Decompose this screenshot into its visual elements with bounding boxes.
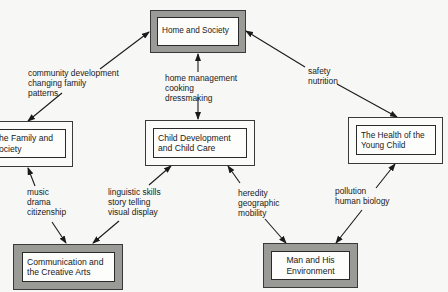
edge-family-comm-upper bbox=[28, 168, 35, 186]
node-label: Child Development and Child Care bbox=[153, 128, 247, 158]
edge-home-family-upper bbox=[100, 32, 149, 69]
node-communication-creative-arts: Communication and the Creative Arts bbox=[13, 244, 123, 290]
edge-label-child-comm: linguistic skills story telling visual d… bbox=[108, 187, 161, 218]
edge-child-comm-lower bbox=[93, 221, 119, 243]
edge-label-home-health: safety nutrition bbox=[308, 66, 338, 86]
edge-home-health-lower bbox=[337, 84, 397, 117]
node-label: he Family and ociety bbox=[0, 129, 66, 158]
edge-health-man-upper bbox=[376, 164, 395, 188]
edge-child-man-upper bbox=[228, 166, 240, 183]
edge-home-health-upper bbox=[246, 31, 305, 67]
node-health-young-child: The Health of the Young Child bbox=[348, 117, 443, 164]
edge-family-comm-lower bbox=[52, 222, 66, 243]
node-family-and-society: he Family and ociety bbox=[0, 121, 73, 167]
node-man-and-environment: Man and His Environment bbox=[263, 243, 358, 288]
node-label: Communication and the Creative Arts bbox=[22, 252, 115, 282]
edge-health-man-lower bbox=[336, 210, 362, 243]
node-label: The Health of the Young Child bbox=[356, 125, 436, 155]
node-label: Home and Society bbox=[157, 17, 239, 46]
edge-label-home-child: home management cooking dressmaking bbox=[165, 73, 237, 104]
node-home-and-society: Home and Society bbox=[150, 10, 246, 53]
edge-label-child-man: heredity geographic mobility bbox=[238, 188, 279, 219]
edge-label-home-family: community development changing family pa… bbox=[28, 68, 119, 99]
edge-child-comm-upper bbox=[149, 166, 171, 185]
edge-label-health-man: pollution human biology bbox=[335, 186, 389, 206]
node-label: Man and His Environment bbox=[271, 251, 350, 280]
edge-label-family-comm: music drama citizenship bbox=[27, 187, 66, 218]
node-child-development: Child Development and Child Care bbox=[145, 120, 255, 166]
edge-child-man-lower bbox=[265, 219, 286, 243]
